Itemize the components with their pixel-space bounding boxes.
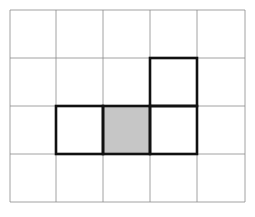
- grid-diagram: [0, 0, 255, 217]
- outlined-cell: [56, 106, 103, 154]
- shaded-cell: [103, 106, 150, 154]
- outlined-cell: [150, 106, 197, 154]
- outlined-cell: [150, 58, 197, 106]
